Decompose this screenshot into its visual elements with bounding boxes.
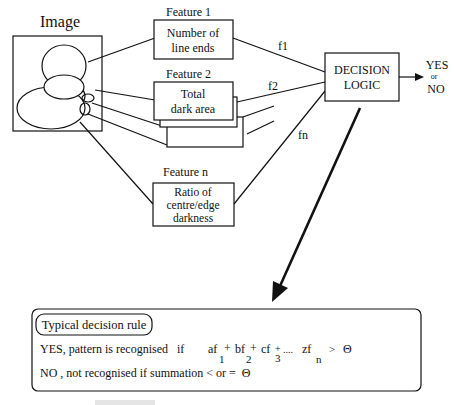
image-title: Image [40,13,80,31]
rule-title: Typical decision rule [42,318,147,332]
output-yes: YES [426,58,449,72]
edge-image-featuren [80,122,153,204]
feature1-text-line1: Number of [167,26,219,40]
svg-text:1: 1 [219,353,225,365]
output-no: NO [427,82,445,96]
edge-fn [234,91,325,204]
rule-no-text: NO , not recognised if summation < or = … [40,366,251,380]
decision-text-line1: DECISION [334,63,390,77]
signal-f1: f1 [278,39,288,53]
svg-text:zf: zf [302,342,311,356]
svg-text:>: > [329,343,335,355]
rule-arrow-line [280,108,360,286]
svg-text:bf: bf [235,342,245,356]
feature2-text-line1: Total [181,87,206,101]
featuren-text-line2: centre/edge [167,199,220,212]
arrow-right-icon [415,73,424,81]
svg-text:af: af [208,342,217,356]
svg-text:+: + [224,341,231,355]
svg-text:n: n [316,353,322,365]
feature1-text-line2: line ends [172,41,215,55]
signal-f2: f2 [268,79,278,93]
caption-fragment [95,400,155,405]
svg-text:3: 3 [275,352,281,364]
signal-fn: fn [298,128,308,142]
svg-text:....: .... [283,344,293,355]
output-or: or [431,72,438,81]
feature2-text-line2: dark area [171,102,216,116]
decision-text-line2: LOGIC [344,78,381,92]
feature1-heading: Feature 1 [166,5,211,19]
svg-text:Θ: Θ [343,342,352,356]
edge-image-feature2 [95,90,155,100]
edge-f4 [247,121,274,134]
featuren-text-line3: darkness [173,212,214,224]
edge-f3 [243,106,274,117]
feature2-heading: Feature 2 [166,67,211,81]
rule-yes-text: YES, pattern is recognised if [40,342,184,356]
decision-logic-box [325,53,399,101]
svg-text:cf: cf [261,342,270,356]
featuren-heading: Feature n [163,165,208,179]
svg-text:2: 2 [246,353,252,365]
pattern-recognition-diagram: Image Feature 1 Number of line ends Feat… [0,0,454,405]
edge-f2 [237,82,325,102]
featuren-text-line1: Ratio of [174,186,212,198]
